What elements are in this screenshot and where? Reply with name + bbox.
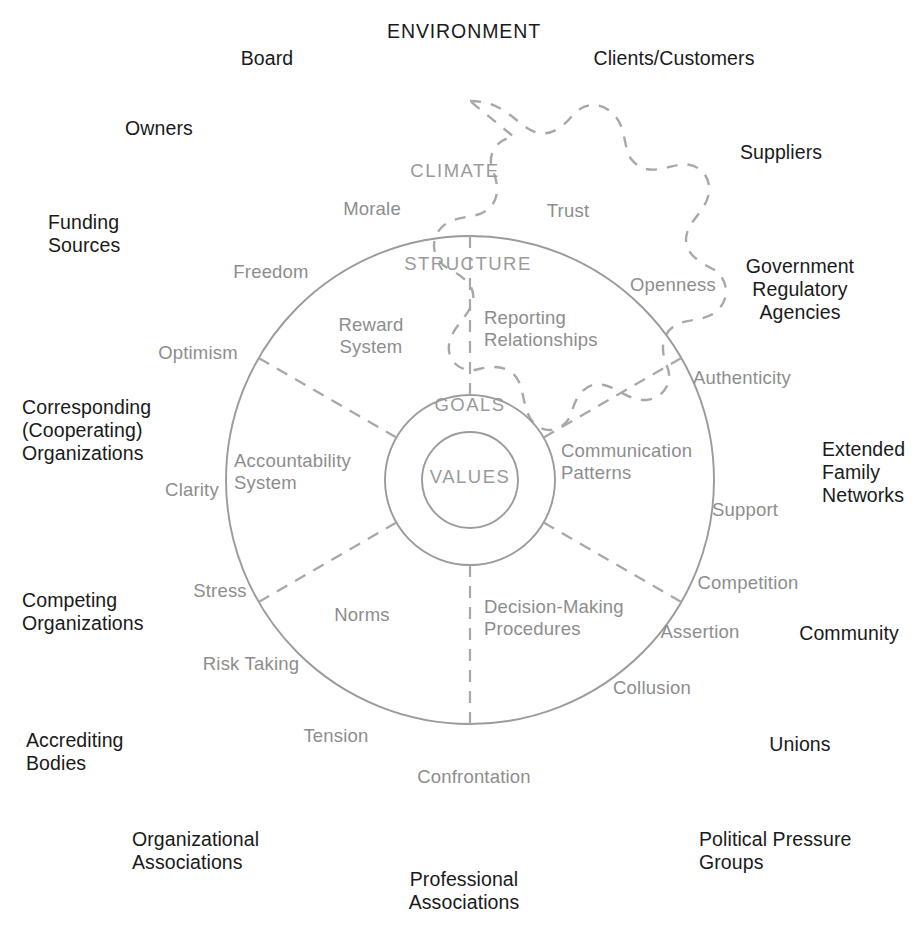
spoke-southeast — [544, 523, 682, 603]
environment-label-organizational-assoc-line-0: Organizational — [132, 828, 259, 850]
climate-label-openness: Openness — [630, 274, 716, 296]
environment-label-corresponding-orgs-line-1: (Cooperating) — [22, 419, 143, 441]
environment-label-government-regulatory: GovernmentRegulatoryAgencies — [746, 255, 854, 324]
environment-title: ENVIRONMENT — [387, 20, 541, 43]
environment-label-professional-assoc-line-0: Professional — [410, 868, 519, 890]
structure-label-communication-patterns-line-1: Patterns — [561, 462, 632, 483]
environment-label-owners-line-0: Owners — [125, 117, 193, 139]
structure-label-accountability-system: AccountabilitySystem — [234, 450, 351, 494]
climate-label-stress: Stress — [193, 580, 247, 602]
environment-label-corresponding-orgs: Corresponding(Cooperating)Organizations — [22, 396, 151, 465]
environment-label-board-line-0: Board — [241, 47, 294, 69]
environment-label-government-regulatory-line-2: Agencies — [759, 301, 840, 323]
climate-label-support-line-0: Support — [712, 499, 778, 520]
climate-label-clarity-line-0: Clarity — [165, 479, 219, 500]
climate-label-optimism: Optimism — [158, 342, 238, 364]
environment-label-clients-customers: Clients/Customers — [594, 47, 755, 70]
environment-label-accrediting-bodies-line-0: Accrediting — [26, 729, 124, 751]
environment-label-funding-sources: FundingSources — [48, 211, 120, 257]
environment-label-corresponding-orgs-line-2: Organizations — [22, 442, 144, 464]
diagram-canvas: ENVIRONMENT CLIMATE STRUCTURE GOALS VALU… — [0, 0, 916, 937]
structure-label-accountability-system-line-0: Accountability — [234, 450, 351, 471]
environment-label-community: Community — [799, 622, 899, 645]
climate-label-tension-line-0: Tension — [303, 725, 368, 746]
structure-label-communication-patterns: CommunicationPatterns — [561, 440, 692, 484]
structure-label-decision-making-line-1: Procedures — [484, 618, 581, 639]
climate-label-openness-line-0: Openness — [630, 274, 716, 295]
climate-label-freedom-line-0: Freedom — [233, 261, 308, 282]
environment-label-professional-assoc-line-1: Associations — [409, 891, 520, 913]
environment-label-suppliers: Suppliers — [740, 141, 822, 164]
climate-label-risk-taking-line-0: Risk Taking — [203, 653, 299, 674]
structure-label-norms-line-0: Norms — [334, 604, 389, 625]
environment-label-organizational-assoc-line-1: Associations — [132, 851, 243, 873]
climate-label-assertion: Assertion — [661, 621, 740, 643]
climate-label-confrontation: Confrontation — [417, 766, 531, 788]
environment-label-extended-family-line-2: Networks — [822, 484, 904, 506]
spoke-southwest — [259, 523, 397, 603]
climate-label-authenticity: Authenticity — [693, 367, 791, 389]
environment-label-unions: Unions — [769, 733, 830, 756]
structure-label-reward-system: RewardSystem — [339, 314, 404, 358]
environment-label-owners: Owners — [125, 117, 193, 140]
environment-label-organizational-assoc: OrganizationalAssociations — [132, 828, 259, 874]
climate-label-stress-line-0: Stress — [193, 580, 247, 601]
climate-label-morale: Morale — [343, 198, 401, 220]
environment-label-unions-line-0: Unions — [769, 733, 830, 755]
climate-label-support: Support — [712, 499, 778, 521]
climate-label-assertion-line-0: Assertion — [661, 621, 740, 642]
environment-label-extended-family: ExtendedFamilyNetworks — [822, 438, 905, 507]
environment-label-corresponding-orgs-line-0: Corresponding — [22, 396, 151, 418]
goals-ring-title: GOALS — [434, 394, 505, 416]
structure-label-reward-system-line-0: Reward — [339, 314, 404, 335]
environment-label-suppliers-line-0: Suppliers — [740, 141, 822, 163]
environment-label-board: Board — [241, 47, 294, 70]
structure-label-reward-system-line-1: System — [340, 336, 403, 357]
climate-label-risk-taking: Risk Taking — [203, 653, 299, 675]
structure-label-reporting-relationships-line-1: Relationships — [484, 329, 598, 350]
climate-label-confrontation-line-0: Confrontation — [417, 766, 531, 787]
environment-label-community-line-0: Community — [799, 622, 899, 644]
spoke-northeast — [544, 358, 682, 438]
environment-label-government-regulatory-line-0: Government — [746, 255, 854, 277]
environment-label-funding-sources-line-1: Sources — [48, 234, 120, 256]
environment-label-extended-family-line-0: Extended — [822, 438, 905, 460]
environment-label-professional-assoc: ProfessionalAssociations — [409, 868, 520, 914]
structure-label-norms: Norms — [334, 604, 389, 626]
structure-label-reporting-relationships-line-0: Reporting — [484, 307, 566, 328]
climate-label-authenticity-line-0: Authenticity — [693, 367, 791, 388]
climate-label-tension: Tension — [303, 725, 368, 747]
environment-label-political-pressure: Political PressureGroups — [699, 828, 851, 874]
environment-label-extended-family-line-1: Family — [822, 461, 880, 483]
structure-label-accountability-system-line-1: System — [234, 472, 297, 493]
environment-label-clients-customers-line-0: Clients/Customers — [594, 47, 755, 69]
environment-label-competing-orgs: CompetingOrganizations — [22, 589, 144, 635]
structure-ring-title: STRUCTURE — [404, 253, 532, 275]
structure-label-reporting-relationships: ReportingRelationships — [484, 307, 598, 351]
environment-label-political-pressure-line-1: Groups — [699, 851, 764, 873]
climate-label-competition: Competition — [698, 572, 799, 594]
climate-label-optimism-line-0: Optimism — [158, 342, 238, 363]
climate-label-trust: Trust — [547, 200, 589, 222]
environment-label-funding-sources-line-0: Funding — [48, 211, 119, 233]
climate-label-clarity: Clarity — [165, 479, 219, 501]
climate-label-competition-line-0: Competition — [698, 572, 799, 593]
climate-label-collusion: Collusion — [613, 677, 691, 699]
environment-label-political-pressure-line-0: Political Pressure — [699, 828, 851, 850]
climate-ring-title: CLIMATE — [410, 160, 499, 182]
structure-label-decision-making: Decision-MakingProcedures — [484, 596, 624, 640]
values-ring-title: VALUES — [430, 466, 511, 488]
climate-label-freedom: Freedom — [233, 261, 308, 283]
environment-label-accrediting-bodies: AccreditingBodies — [26, 729, 124, 775]
environment-label-competing-orgs-line-1: Organizations — [22, 612, 144, 634]
structure-label-decision-making-line-0: Decision-Making — [484, 596, 624, 617]
climate-label-collusion-line-0: Collusion — [613, 677, 691, 698]
environment-label-government-regulatory-line-1: Regulatory — [752, 278, 847, 300]
environment-label-competing-orgs-line-0: Competing — [22, 589, 117, 611]
environment-label-accrediting-bodies-line-1: Bodies — [26, 752, 86, 774]
spoke-northwest — [259, 358, 397, 438]
climate-label-morale-line-0: Morale — [343, 198, 401, 219]
structure-label-communication-patterns-line-0: Communication — [561, 440, 692, 461]
climate-label-trust-line-0: Trust — [547, 200, 589, 221]
